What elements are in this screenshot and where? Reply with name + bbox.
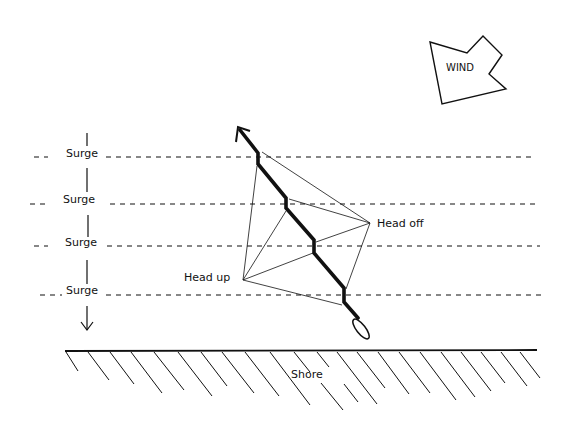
surge-label-3: Surge — [65, 237, 97, 248]
wind-label: WIND — [446, 63, 474, 73]
tack-construction-lines — [243, 152, 370, 305]
surge-lines — [30, 157, 546, 295]
surge-direction-arrow-icon — [81, 133, 93, 330]
shore-line — [65, 350, 537, 351]
shore-label: Shore — [291, 369, 323, 380]
shore-hatching — [66, 352, 540, 410]
surge-label-2: Surge — [63, 194, 95, 205]
diagram-svg — [0, 0, 570, 433]
head-up-label: Head up — [184, 272, 230, 283]
surge-label-4: Surge — [66, 285, 98, 296]
boat-icon — [350, 317, 372, 341]
head-off-label: Head off — [377, 218, 424, 229]
diagram-canvas: WIND Surge Surge Surge Surge Head up Hea… — [0, 0, 570, 433]
sailing-course-path — [240, 130, 358, 318]
surge-label-1: Surge — [66, 148, 98, 159]
